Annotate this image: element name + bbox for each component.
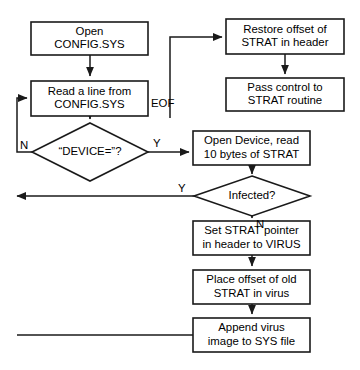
- node-label-set_strat-line1: Set STRAT pointer: [204, 224, 299, 236]
- node-label-append_virus-line1: Append virus: [218, 321, 285, 333]
- node-label-infected_test: Infected?: [229, 189, 276, 201]
- flow-node-open_config: OpenCONFIG.SYS: [31, 22, 148, 55]
- node-layer: OpenCONFIG.SYSRead a line fromCONFIG.SYS…: [31, 19, 344, 352]
- device_yes_label: Y: [153, 137, 161, 149]
- flow-node-read_line: Read a line fromCONFIG.SYS: [31, 81, 148, 116]
- flow-node-infected_test: Infected?: [194, 176, 310, 216]
- node-label-device_test: “DEVICE=”?: [59, 145, 122, 157]
- flow-node-device_test: “DEVICE=”?: [32, 123, 148, 181]
- flow-node-append_virus: Append virusimage to SYS file: [193, 318, 310, 352]
- flow-node-pass_control: Pass control toSTRAT routine: [226, 78, 344, 111]
- node-label-append_virus-line2: image to SYS file: [208, 335, 295, 347]
- node-label-place_offset-line1: Place offset of old: [206, 273, 296, 285]
- node-label-restore_offset-line1: Restore offset of: [243, 23, 327, 35]
- node-label-open_device-line2: 10 bytes of STRAT: [204, 148, 299, 160]
- node-label-restore_offset-line2: STRAT in header: [242, 36, 329, 48]
- flow-node-place_offset: Place offset of oldSTRAT in virus: [193, 270, 310, 304]
- node-label-open_config-line1: Open: [76, 25, 104, 37]
- flow-node-open_device: Open Device, read10 bytes of STRAT: [193, 131, 310, 165]
- node-label-read_line-line2: CONFIG.SYS: [54, 98, 125, 110]
- node-label-pass_control-line1: Pass control to: [247, 81, 322, 93]
- device_no_label: N: [20, 139, 28, 151]
- infected_yes_label: Y: [178, 182, 186, 194]
- flow-node-restore_offset: Restore offset ofSTRAT in header: [226, 19, 344, 54]
- flowchart-canvas: OpenCONFIG.SYSRead a line fromCONFIG.SYS…: [0, 0, 360, 370]
- flow-node-set_strat: Set STRAT pointerin header to VIRUS: [193, 221, 310, 255]
- node-label-open_device-line1: Open Device, read: [204, 134, 299, 146]
- node-label-open_config-line2: CONFIG.SYS: [54, 38, 125, 50]
- node-label-place_offset-line2: STRAT in virus: [214, 287, 290, 299]
- node-label-read_line-line1: Read a line from: [48, 85, 132, 97]
- node-label-set_strat-line2: in header to VIRUS: [202, 238, 301, 250]
- edge-read-eof-to-restore: [170, 37, 222, 118]
- infected_no_label: N: [256, 218, 264, 230]
- eof_label: EOF: [151, 97, 174, 109]
- node-label-pass_control-line2: STRAT routine: [248, 94, 322, 106]
- flowchart-svg: OpenCONFIG.SYSRead a line fromCONFIG.SYS…: [0, 0, 360, 370]
